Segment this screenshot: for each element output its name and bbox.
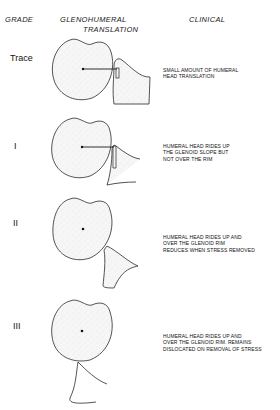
grade-i-figure [52, 118, 140, 185]
diagram-figures [0, 0, 280, 410]
grade-iii-figure [52, 300, 113, 403]
glenoid-icon [103, 246, 138, 288]
center-dot-icon [82, 228, 85, 231]
trace-figure [52, 39, 150, 104]
center-dot-icon [82, 68, 84, 70]
center-dot-icon [81, 330, 84, 333]
glenoid-icon [70, 362, 107, 403]
center-dot-icon [81, 146, 83, 148]
grade-ii-figure [53, 198, 138, 288]
glenoid-icon [107, 145, 140, 185]
glenoid-icon [113, 59, 150, 104]
